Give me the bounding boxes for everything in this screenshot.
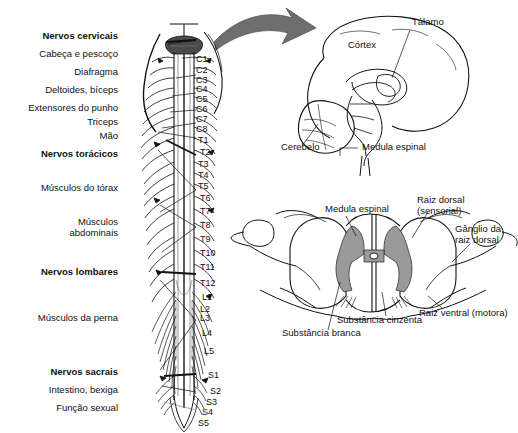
vertebra-label-l1: L1 [202,293,212,302]
label-musculos-abdominais-line1: Músculos [0,217,118,228]
vertebra-label-t5: T5 [198,182,209,191]
vertebra-label-t1: T1 [198,136,209,145]
vertebra-label-c5: C5 [196,95,208,104]
label-talamo: Tálamo [412,17,444,28]
label-raiz-ventral-motora: Raiz ventral (motora) [419,308,508,319]
label-substancia-cinzenta: Substância cinzenta [337,315,422,326]
vertebra-label-c2: C2 [196,66,208,75]
label-cabeca-e-pescoco: Cabeça e pescoço [0,49,118,60]
label-ganglio-da-line2: raiz dorsal [455,235,499,246]
label-cortex: Córtex [348,40,376,51]
label-extensores-do-punho: Extensores do punho [0,103,118,114]
transition-arrow-icon [214,8,316,50]
label-musculos-abdominais-line2: abdominais [0,228,118,239]
label-mao: Mão [0,131,118,142]
vertebra-label-c7: C7 [196,115,208,124]
vertebra-label-l5: L5 [204,347,214,356]
label-ganglio-da-line1: Gânglio da [455,224,501,235]
label-nervos-lombares: Nervos lombares [0,267,118,278]
vertebra-label-t9: T9 [200,235,211,244]
vertebra-label-t3: T3 [198,160,209,169]
vertebra-label-c6: C6 [196,105,208,114]
label-raiz-dorsal-sensorial: (sensorial) [417,206,461,217]
label-raiz-dorsal: Raiz dorsal [417,195,465,206]
vertebra-label-l4: L4 [202,329,212,338]
label-deltoides-biceps: Deltoides, bíceps [0,85,118,96]
label-medula-espinal-cross: Medula espinal [325,204,389,215]
vertebra-label-s2: S2 [210,387,221,396]
label-nervos-toracicos: Nervos torácicos [0,149,118,160]
label-intestino-bexiga: Intestino, bexiga [0,385,118,396]
vertebra-label-s4: S4 [202,408,213,417]
vertebra-label-t2: T2 [200,148,211,157]
vertebra-label-l3: L3 [200,314,210,323]
vertebra-label-t12: T12 [200,279,216,288]
vertebra-label-c8: C8 [196,125,208,134]
vertebra-label-t6: T6 [200,194,211,203]
vertebra-label-t7: T7 [200,207,211,216]
vertebra-label-t4: T4 [198,171,209,180]
label-musculos-do-torax: Músculos do tórax [0,183,118,194]
label-funcao-sexual: Função sexual [0,403,118,414]
vertebra-label-s3: S3 [206,398,217,407]
vertebra-label-t11: T11 [200,263,215,272]
label-nervos-cervicais: Nervos cervicais [0,31,118,42]
label-medula-espinal-brain: Medula espinal [362,142,426,153]
label-substancia-branca: Substância branca [282,328,361,339]
label-nervos-sacrais: Nervos sacrais [0,367,118,378]
label-cerebelo: Cerebelo [281,142,320,153]
vertebra-label-t8: T8 [200,221,211,230]
vertebra-label-c1: C1 [196,55,208,64]
vertebra-label-c4: C4 [196,85,208,94]
figure-canvas: Nervos cervicais Cabeça e pescoço Diafra… [0,0,518,433]
label-diafragma: Diafragma [0,67,118,78]
vertebra-label-t10: T10 [200,249,216,258]
label-musculos-da-perna: Músculos da perna [0,313,118,324]
vertebra-label-s1: S1 [208,371,219,380]
label-triceps: Triceps [0,117,118,128]
vertebra-label-s5: S5 [198,419,209,428]
